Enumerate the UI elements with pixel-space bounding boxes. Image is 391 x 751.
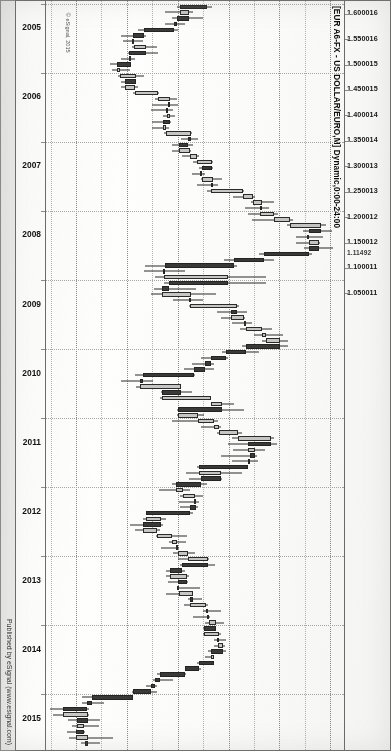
gridline-horizontal [229, 1, 230, 750]
candlestick [203, 609, 221, 613]
year-tick-mark [41, 280, 45, 281]
price-axis[interactable]: 1.6000161.5500161.5000151.4500151.400014… [345, 0, 391, 751]
candlestick-body-up [63, 712, 88, 716]
candlestick [303, 229, 332, 233]
year-tick-mark [41, 4, 45, 5]
candlestick [121, 79, 135, 83]
candlestick-body-up [211, 402, 223, 406]
credit-strip: Published by eSignal (www.esignal.com) [0, 0, 15, 751]
candlestick-body-down [179, 143, 189, 147]
candlestick-body-down [199, 661, 214, 665]
time-axis[interactable]: 2005200620072008200920102011201220132014… [15, 0, 45, 751]
candlestick [201, 177, 222, 181]
candlestick [165, 10, 193, 14]
year-tick-label: 2011 [23, 437, 41, 447]
candlestick-body-down [129, 51, 145, 55]
candlestick-body-up [143, 528, 157, 532]
candlestick [296, 235, 323, 239]
candlestick-body-up [176, 488, 183, 492]
price-tick-label: 1.550016 [347, 34, 378, 43]
candlestick-body-down [174, 22, 177, 26]
candlestick-body-down [234, 258, 265, 262]
candlestick [192, 171, 205, 175]
candlestick-wick [112, 70, 130, 71]
candlestick [151, 108, 172, 112]
candlestick-body-down [143, 373, 193, 377]
candlestick-body-up [179, 591, 193, 595]
candlestick [180, 494, 203, 498]
candlestick [201, 356, 228, 360]
candlestick [166, 568, 186, 572]
candlestick [152, 102, 177, 106]
candlestick-body-up [163, 396, 211, 400]
candlestick [69, 735, 113, 739]
candlestick-body-down [168, 102, 170, 106]
price-tick-mark [345, 268, 350, 269]
price-tick-label: 1.100011 [347, 262, 377, 271]
candlestick [160, 396, 211, 400]
candlestick-body-up [158, 97, 170, 101]
candlestick-body-down [177, 16, 189, 20]
candlestick [132, 45, 157, 49]
candlestick-body-down [309, 246, 318, 250]
candlestick-body-down [189, 298, 191, 302]
candlestick-wick [154, 288, 196, 289]
candlestick-body-down [309, 229, 321, 233]
candlestick [161, 390, 192, 394]
candlestick-wick [173, 300, 203, 301]
candlestick-body-up [163, 125, 166, 129]
candlestick-body-up [178, 551, 188, 555]
candlestick [169, 540, 186, 544]
candlestick [184, 367, 214, 371]
candlestick-body-down [117, 62, 131, 66]
candlestick [203, 626, 214, 630]
candlestick [203, 632, 221, 636]
candlestick-wick [232, 461, 257, 462]
candlestick [222, 350, 259, 354]
candlestick-body-down [85, 741, 88, 745]
candlestick [252, 217, 293, 221]
candlestick-wick [159, 490, 190, 491]
candlestick [121, 56, 135, 60]
candlestick-body-down [77, 718, 89, 722]
candlestick-body-up [214, 425, 219, 429]
candlestick [214, 402, 234, 406]
candlestick-body-down [144, 28, 173, 32]
candlestick-body-down [205, 361, 211, 365]
gridline-horizontal [279, 1, 280, 750]
candlestick [132, 689, 156, 693]
candlestick-body-up [76, 735, 88, 739]
candlestick [145, 263, 238, 267]
price-tick-label: 1.500015 [347, 59, 378, 68]
candlestick [193, 361, 214, 365]
candlestick [262, 338, 288, 342]
chart-figure: 1.6000161.5500161.5000151.4500151.400014… [0, 0, 391, 751]
candlestick-body-up [179, 148, 191, 152]
candlestick [240, 327, 272, 331]
plot-area[interactable]: [EUR A6-FX - US DOLLAR/EURO,M] Dynamic,0… [45, 0, 345, 751]
year-tick-label: 2014 [22, 644, 41, 654]
candlestick-body-down [201, 476, 221, 480]
candlestick [197, 465, 242, 469]
candlestick-body-up [211, 189, 244, 193]
candlestick-body-up [132, 39, 134, 43]
candlestick-body-down [202, 166, 212, 170]
candlestick [82, 701, 104, 705]
candlestick-body-down [211, 356, 226, 360]
candlestick-wick [151, 110, 172, 111]
candlestick-body-down [226, 350, 246, 354]
candlestick [180, 505, 198, 509]
candlestick-body-up [209, 620, 217, 624]
candlestick-body-down [163, 269, 165, 273]
candlestick-body-down [185, 666, 198, 670]
candlestick [221, 315, 245, 319]
candlestick-body-up [170, 574, 188, 578]
candlestick [180, 563, 215, 567]
candlestick [178, 557, 209, 561]
candlestick-body-up [157, 534, 171, 538]
current-price-label: 1.11492 [347, 249, 371, 256]
gridline-horizontal [51, 1, 52, 750]
candlestick [110, 62, 132, 66]
candlestick [189, 304, 238, 308]
gridline-horizontal [330, 1, 331, 750]
